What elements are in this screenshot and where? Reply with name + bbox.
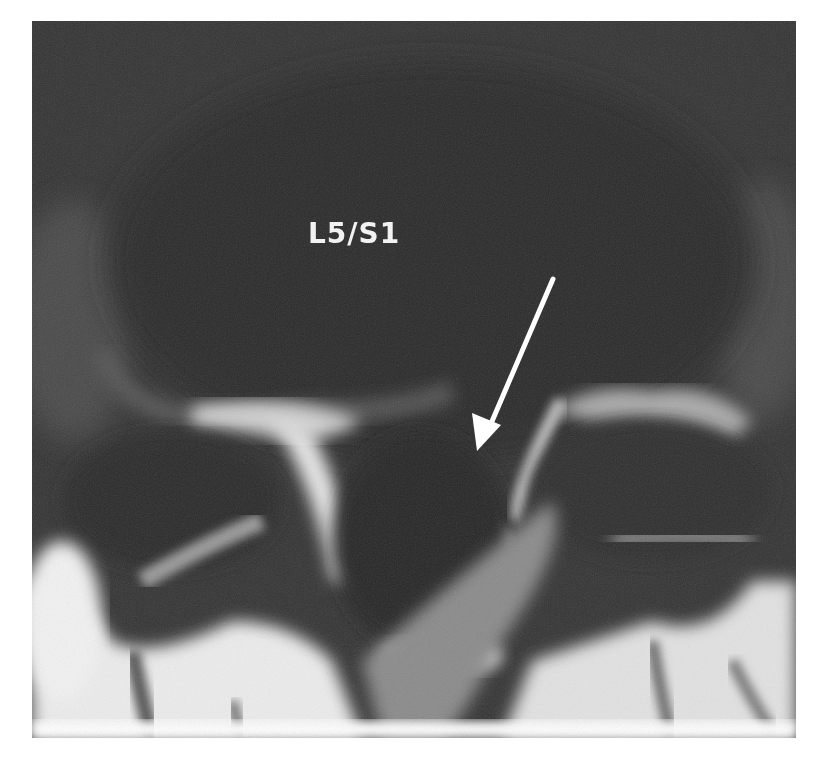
- mri-image: L5/S1: [32, 21, 796, 738]
- mri-scan-graphic: [32, 21, 796, 738]
- vertebral-level-label: L5/S1: [308, 217, 400, 250]
